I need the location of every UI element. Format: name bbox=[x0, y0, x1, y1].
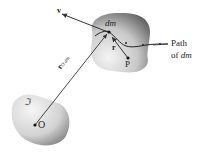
point-P-label: P bbox=[125, 60, 130, 69]
position-vector-r-O-dm bbox=[35, 34, 107, 125]
relative-r-label: r bbox=[112, 44, 116, 52]
point-O-label: O bbox=[38, 120, 45, 130]
frame-label: ℑ bbox=[24, 98, 30, 107]
path-label-var: dm bbox=[181, 50, 192, 60]
path-label-line2: of dm bbox=[171, 51, 192, 60]
path-point-icon bbox=[142, 44, 144, 46]
point-O-icon bbox=[33, 123, 36, 126]
path-label-line1: Path bbox=[171, 39, 187, 48]
path-label-prefix: of bbox=[171, 50, 181, 60]
diagram-graphics bbox=[0, 0, 206, 153]
dm-label: dm bbox=[105, 19, 116, 28]
dynamics-diagram: v dm r P Path of dm rO dm ℑ O bbox=[0, 0, 206, 153]
dm-point-icon bbox=[107, 30, 110, 33]
path-point-icon bbox=[125, 42, 127, 44]
velocity-label: v bbox=[57, 7, 61, 15]
